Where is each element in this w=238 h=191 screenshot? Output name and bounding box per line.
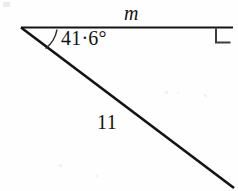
triangle-diagram-svg — [0, 0, 238, 191]
hypotenuse-label: 11 — [97, 112, 117, 132]
scan-artifact — [3, 2, 10, 7]
angle-label: 41·6° — [61, 28, 107, 48]
side-label-m: m — [124, 3, 138, 23]
triangle-hypotenuse — [21, 28, 234, 189]
right-angle-marker — [216, 29, 231, 43]
triangle-figure: m 41·6° 11 — [0, 0, 238, 191]
